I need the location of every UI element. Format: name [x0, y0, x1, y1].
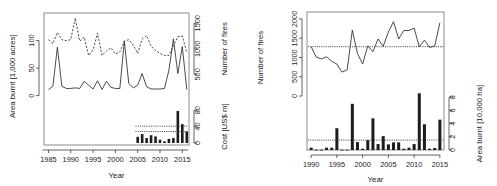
x-ticklabel: 1995	[329, 160, 345, 169]
y-axis-label-right-bottom: Cost [US$ m]	[220, 103, 229, 149]
y-ticklabel-right-bottom: 80	[193, 106, 202, 114]
figure-container: 050100Area burnt [1,000 acres]5001000150…	[0, 0, 497, 186]
bar-area-burnt	[407, 148, 410, 150]
y-ticklabel-left: 2000	[290, 11, 299, 27]
x-ticklabel: 2000	[107, 155, 123, 164]
bar-area-burnt	[315, 150, 318, 151]
x-ticklabel: 2010	[152, 155, 168, 164]
y-ticklabel-right: 6	[448, 108, 457, 112]
panel-left-svg: 050100Area burnt [1,000 acres]5001000150…	[0, 0, 249, 186]
bar-cost	[185, 132, 188, 143]
y-ticklabel-right-top: 1000	[193, 41, 202, 57]
bar-area-burnt	[330, 148, 333, 150]
x-ticklabel: 2015	[432, 160, 448, 169]
bar-cost	[172, 138, 175, 143]
bar-area-burnt	[433, 148, 436, 150]
bar-area-burnt	[387, 144, 390, 150]
y-axis-label-right: Area burnt [10,000 ha]	[475, 85, 484, 163]
y-ticklabel-left: 0	[290, 94, 299, 98]
bar-cost	[163, 141, 166, 143]
bar-area-burnt	[356, 142, 359, 150]
bar-area-burnt	[366, 140, 369, 150]
bar-cost	[159, 140, 162, 143]
y-ticklabel-right: 2	[448, 135, 457, 139]
x-ticklabel: 1995	[85, 155, 101, 164]
bar-area-burnt	[418, 93, 421, 150]
bar-area-burnt	[392, 142, 395, 150]
x-axis-label: Year	[109, 171, 125, 180]
y-ticklabel-left: 500	[290, 71, 299, 83]
bar-area-burnt	[397, 142, 400, 150]
x-axis-label: Year	[368, 175, 384, 184]
plot-frame	[44, 13, 189, 145]
bar-area-burnt	[361, 149, 364, 150]
bar-area-burnt	[428, 149, 431, 150]
bar-area-burnt	[413, 144, 416, 150]
x-ticklabel: 2000	[354, 160, 370, 169]
bar-area-burnt	[310, 148, 313, 150]
bar-area-burnt	[335, 128, 338, 150]
series-number-of-fires	[48, 18, 186, 55]
bar-area-burnt	[423, 124, 426, 150]
x-ticklabel: 1985	[40, 155, 56, 164]
x-ticklabel: 1990	[303, 160, 319, 169]
bar-cost	[177, 111, 180, 143]
bar-area-burnt	[351, 104, 354, 150]
y-ticklabel-left: 100	[27, 34, 36, 46]
x-ticklabel: 1990	[63, 155, 79, 164]
bar-cost	[168, 139, 171, 143]
y-ticklabel-left: 1500	[290, 30, 299, 46]
chart-panel-right: 0500100015002000Number of fires02468Area…	[249, 0, 497, 186]
y-ticklabel-right-bottom: 0	[193, 141, 202, 145]
panel-right-svg: 0500100015002000Number of fires02468Area…	[249, 0, 497, 186]
y-axis-label-left: Area burnt [1,000 acres]	[8, 34, 17, 118]
bar-cost	[141, 134, 144, 143]
bar-area-burnt	[371, 118, 374, 150]
series-area-burnt	[48, 39, 186, 90]
bar-cost	[181, 124, 184, 143]
x-ticklabel: 2005	[380, 160, 396, 169]
x-ticklabel: 2005	[129, 155, 145, 164]
y-ticklabel-left: 1000	[290, 49, 299, 65]
bar-area-burnt	[320, 150, 323, 151]
bar-area-burnt	[346, 150, 349, 151]
y-ticklabel-right-bottom: 40	[193, 122, 202, 130]
bar-cost	[154, 136, 157, 143]
x-ticklabel: 2010	[406, 160, 422, 169]
y-axis-label-left: Number of fires	[256, 31, 265, 84]
y-axis-label-right-top: Number of fires	[220, 22, 229, 75]
y-ticklabel-right: 8	[448, 95, 457, 99]
y-ticklabel-left: 50	[27, 64, 36, 72]
bar-area-burnt	[382, 136, 385, 150]
y-ticklabel-right: 0	[448, 148, 457, 152]
y-ticklabel-right-top: 500	[193, 68, 202, 80]
bar-cost	[150, 135, 153, 143]
x-ticklabel: 2015	[174, 155, 190, 164]
bar-cost	[145, 138, 148, 143]
bar-area-burnt	[438, 120, 441, 150]
y-ticklabel-right: 4	[448, 122, 457, 126]
y-ticklabel-left: 0	[27, 94, 36, 98]
bar-cost	[136, 137, 139, 143]
bar-area-burnt	[402, 149, 405, 150]
bar-area-burnt	[325, 148, 328, 150]
y-ticklabel-right-top: 1500	[193, 15, 202, 31]
bar-area-burnt	[377, 144, 380, 150]
chart-panel-left: 050100Area burnt [1,000 acres]5001000150…	[0, 0, 249, 186]
bar-area-burnt	[341, 150, 344, 151]
